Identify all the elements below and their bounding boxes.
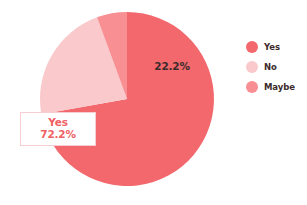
chart-legend: YesNoMaybe bbox=[246, 40, 304, 93]
legend-item-yes[interactable]: Yes bbox=[246, 40, 304, 53]
callout-percent-label: 72.2% bbox=[40, 129, 75, 141]
legend-item-no[interactable]: No bbox=[246, 60, 304, 73]
pie-chart: 22.2% Yes 72.2% YesNoMaybe bbox=[0, 0, 307, 205]
legend-swatch-icon-no bbox=[246, 61, 258, 73]
slice-label-no: 22.2% bbox=[154, 60, 190, 72]
pie-chart-canvas: 22.2% bbox=[0, 0, 307, 205]
legend-item-maybe[interactable]: Maybe bbox=[246, 80, 304, 93]
legend-label: No bbox=[264, 62, 277, 72]
legend-label: Maybe bbox=[264, 82, 295, 92]
callout-yes: Yes 72.2% bbox=[20, 112, 96, 146]
pie-slice-group bbox=[40, 12, 214, 186]
legend-swatch-icon-yes bbox=[246, 41, 258, 53]
legend-swatch-icon-maybe bbox=[246, 81, 258, 93]
legend-label: Yes bbox=[264, 42, 280, 52]
